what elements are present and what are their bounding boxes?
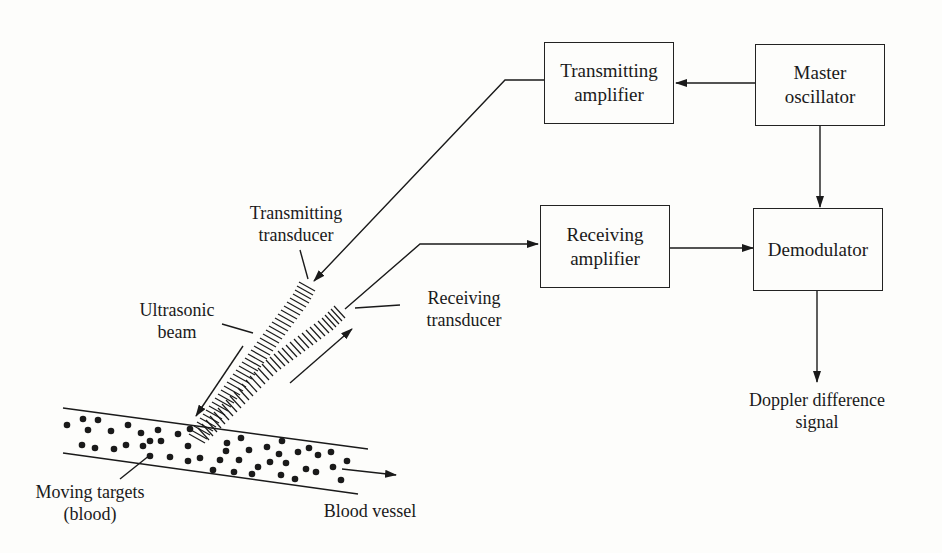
- label-line2: (blood): [30, 503, 150, 525]
- label-doppler-output: Doppler differencesignal: [727, 389, 907, 433]
- label-line1: Doppler difference: [727, 389, 907, 411]
- flow-arrow: [342, 469, 396, 475]
- block-receiving-amplifier: Receivingamplifier: [540, 205, 670, 288]
- label-blood-vessel: Blood vessel: [310, 500, 430, 522]
- label-moving-targets: Moving targets(blood): [30, 481, 150, 525]
- block-label-line1: Receiving: [566, 223, 643, 247]
- leader-rx-transducer: [355, 305, 400, 308]
- label-receiving-transducer: Receivingtransducer: [404, 287, 524, 331]
- block-transmitting-amplifier: Transmittingamplifier: [544, 42, 674, 124]
- block-demodulator: Demodulator: [753, 208, 883, 291]
- block-label-line2: amplifier: [566, 247, 643, 271]
- label-line2: signal: [727, 411, 907, 433]
- label-line2: transducer: [404, 309, 524, 331]
- leader-moving-targets: [120, 455, 150, 479]
- label-line1: Moving targets: [30, 481, 150, 503]
- block-label-line2: oscillator: [785, 85, 856, 109]
- leader-tx-transducer: [300, 250, 308, 279]
- block-label-line2: amplifier: [560, 83, 658, 107]
- block-master-oscillator: Masteroscillator: [755, 44, 885, 126]
- label-line1: Transmitting: [236, 202, 356, 224]
- label-line1: Ultrasonic: [122, 299, 232, 321]
- label-line2: beam: [122, 321, 232, 343]
- label-transmitting-transducer: Transmittingtransducer: [236, 202, 356, 246]
- label-line1: Blood vessel: [310, 500, 430, 522]
- block-label-line1: Master: [785, 61, 856, 85]
- label-line2: transducer: [236, 224, 356, 246]
- label-line1: Receiving: [404, 287, 524, 309]
- block-label-line1: Transmitting: [560, 59, 658, 83]
- label-ultrasonic-beam: Ultrasonicbeam: [122, 299, 232, 343]
- arrow-tx-amp-to-transducer: [314, 80, 544, 281]
- block-label-line1: Demodulator: [768, 238, 868, 262]
